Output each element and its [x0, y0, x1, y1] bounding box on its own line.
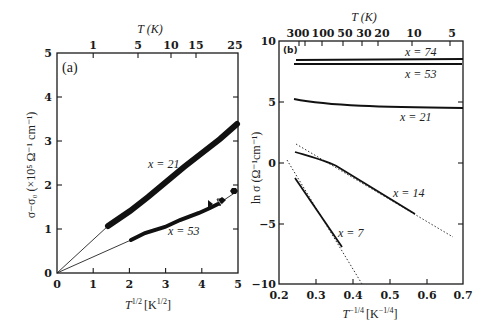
- panel-b-top-tick: 20: [374, 27, 390, 40]
- series-label-x74: x = 74: [404, 45, 436, 59]
- panel-a-top-tick: 15: [188, 39, 203, 52]
- panel-b-top-tick: 100: [312, 27, 335, 40]
- panel-a-ytick: 1: [44, 223, 52, 236]
- panel-a-ytick: 2: [44, 179, 52, 192]
- panel-a-top-tick: 10: [163, 39, 179, 52]
- series-label-x14: x = 14: [392, 186, 424, 200]
- panel-a-ytick: 4: [44, 91, 52, 104]
- panel-b-y-axis-title: ln σ (Ω⁻¹cm⁻¹): [249, 132, 263, 205]
- panel-b-top-tick: 50: [337, 27, 353, 40]
- panel-b-label: (b): [283, 45, 298, 55]
- panel-a-xtick: 5: [234, 278, 242, 291]
- panel-b-xtick: 0.5: [380, 289, 399, 302]
- panel-a-ytick: 5: [44, 47, 52, 60]
- x53-fit-line: [57, 240, 131, 273]
- panel-b-xtick: 0.7: [453, 289, 472, 302]
- panel-b-y-ticks: [279, 102, 463, 224]
- panel-b-ytick: 0: [268, 157, 276, 170]
- panel-a-top-tick: 1: [89, 39, 97, 52]
- panel-a-y-axis-title: σ−σ₀ (×10⁵ Ω⁻¹ cm⁻¹): [24, 112, 38, 219]
- series-label-x21: x = 21: [147, 157, 179, 171]
- panel-a-xtick: 4: [198, 278, 206, 291]
- series-label-x7: x = 7: [337, 226, 364, 240]
- figure: 0 1 2 3 4 5 0 1 2 3 4 5 1 5 10 15 25 T (…: [0, 0, 487, 335]
- panel-a-x-ticks: [93, 268, 202, 273]
- series-x21-data: [108, 124, 237, 226]
- panel-b-top-tick: 10: [406, 27, 422, 40]
- panel-a-x-axis-title: T1/2[K1/2]: [125, 297, 171, 312]
- panel-a-ytick: 0: [44, 267, 52, 280]
- series-x7-line: [295, 178, 342, 247]
- series-x14-fit-dotted: [296, 144, 453, 237]
- panel-b: 0.2 0.3 0.4 0.5 0.6 0.7 −10 −5 0 5 10 30…: [249, 10, 473, 321]
- panel-b-x-axis-title: T−1/4[K−1/4]: [343, 306, 398, 321]
- panel-a-xtick: 2: [126, 278, 134, 291]
- panel-b-xtick: 0.3: [306, 289, 325, 302]
- panel-a-top-ticks: [93, 53, 196, 58]
- panel-a-top-tick: 25: [227, 39, 242, 52]
- panel-a-xtick: 3: [162, 278, 170, 291]
- panel-b-ytick: 10: [261, 35, 277, 48]
- series-label-x53: x = 53: [167, 224, 199, 238]
- series-x21-line: [294, 99, 463, 108]
- series-label-x21: x = 21: [399, 110, 431, 124]
- panel-a: 0 1 2 3 4 5 0 1 2 3 4 5 1 5 10 15 25 T (…: [24, 22, 243, 312]
- panel-b-x-ticks: [316, 279, 427, 284]
- panel-b-xtick: 0.6: [417, 289, 436, 302]
- panel-b-ytick: 5: [268, 96, 276, 109]
- panel-b-top-tick: 5: [448, 27, 456, 40]
- series-x74-line: [296, 59, 463, 60]
- x21-fit-line: [57, 226, 108, 273]
- panel-b-top-tick: 30: [356, 27, 372, 40]
- panel-a-top-tick: 5: [134, 39, 142, 52]
- panel-b-top-tick: 300: [287, 27, 310, 40]
- panel-a-xtick: 1: [89, 278, 97, 291]
- series-label-x53: x = 53: [404, 67, 436, 81]
- panel-a-ytick: 3: [44, 135, 52, 148]
- panel-b-ytick: −10: [251, 278, 276, 291]
- panel-a-xtick: 0: [53, 278, 61, 291]
- panel-b-ytick: −5: [259, 218, 276, 231]
- panel-a-top-axis-title: T (K): [137, 22, 162, 36]
- panel-a-label: (a): [62, 60, 78, 76]
- hexagon-marker-icon: [230, 188, 238, 194]
- panel-b-top-axis-title: T (K): [351, 10, 376, 24]
- panel-b-xtick: 0.4: [343, 289, 362, 302]
